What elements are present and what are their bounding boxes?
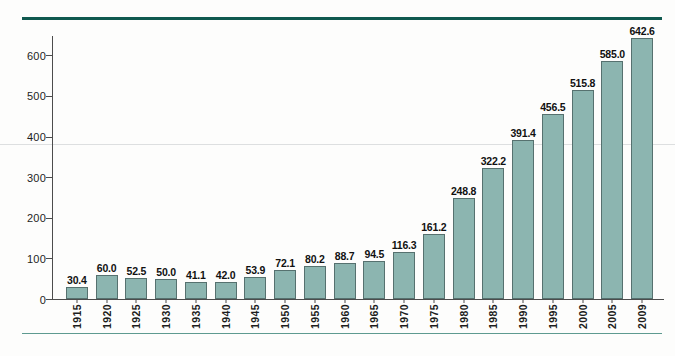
x-axis-tick-mark: [255, 299, 256, 303]
x-axis-tick-label: 2000: [577, 304, 589, 329]
x-axis-tick-label: 1995: [547, 304, 559, 329]
x-axis-tick-mark: [374, 299, 375, 303]
x-axis-tick-mark: [106, 299, 107, 303]
x-axis-tick-label: 1925: [130, 304, 142, 329]
bar-column: 322.2: [479, 36, 509, 299]
x-axis-label-column: 2000: [568, 304, 598, 348]
bar-value-label: 642.6: [629, 25, 654, 37]
x-axis-tick-label: 1950: [279, 304, 291, 329]
y-axis-tick-mark: [46, 96, 52, 97]
x-axis-label-column: 1965: [360, 304, 390, 348]
x-axis-label-column: 1925: [122, 304, 152, 348]
bar[interactable]: 42.0: [215, 282, 237, 299]
x-axis-tick-mark: [344, 299, 345, 303]
bar-value-label: 248.8: [451, 185, 476, 197]
y-axis-tick-label: 300: [27, 172, 46, 184]
x-axis-tick-mark: [404, 299, 405, 303]
bar[interactable]: 52.5: [125, 278, 147, 299]
x-axis-tick-label: 1935: [190, 304, 202, 329]
x-axis-tick-mark: [166, 299, 167, 303]
bar[interactable]: 41.1: [185, 282, 207, 299]
bar-column: 161.2: [419, 36, 449, 299]
y-axis-tick-label: 200: [27, 212, 46, 224]
x-axis-tick-mark: [612, 299, 613, 303]
bar-column: 52.5: [122, 36, 152, 299]
x-axis-label-column: 1975: [419, 304, 449, 348]
bar[interactable]: 161.2: [423, 234, 445, 299]
x-axis-line: [52, 299, 664, 300]
y-axis-tick-label: 600: [27, 50, 46, 62]
bar-value-label: 41.1: [186, 269, 206, 281]
x-axis-tick-label: 1920: [101, 304, 113, 329]
bar-column: 72.1: [270, 36, 300, 299]
bar-value-label: 585.0: [600, 48, 625, 60]
x-axis-label-column: 1960: [330, 304, 360, 348]
bar[interactable]: 80.2: [304, 266, 326, 299]
x-axis-tick-mark: [582, 299, 583, 303]
bar-value-label: 456.5: [540, 101, 565, 113]
bar-column: 41.1: [181, 36, 211, 299]
y-axis-tick-mark: [46, 177, 52, 178]
bar[interactable]: 50.0: [155, 279, 177, 299]
x-axis-label-column: 1995: [538, 304, 568, 348]
bar-column: 88.7: [330, 36, 360, 299]
y-axis-tick-label: 0: [40, 294, 46, 306]
x-axis-label-column: 1935: [181, 304, 211, 348]
x-axis-label-column: 1990: [508, 304, 538, 348]
bar-value-label: 94.5: [365, 248, 385, 260]
bar[interactable]: 88.7: [334, 263, 356, 299]
y-axis-tick-mark: [46, 55, 52, 56]
x-axis-tick-label: 2005: [606, 304, 618, 329]
bar-value-label: 30.4: [67, 274, 87, 286]
x-axis-tick-label: 1970: [398, 304, 410, 329]
bar-value-label: 60.0: [97, 262, 117, 274]
bar[interactable]: 72.1: [274, 270, 296, 299]
x-axis-labels: 1915192019251930193519401945195019551960…: [53, 304, 664, 348]
bar[interactable]: 642.6: [631, 38, 653, 299]
x-axis-label-column: 1945: [241, 304, 271, 348]
x-axis-tick-mark: [76, 299, 77, 303]
bar-column: 30.4: [62, 36, 92, 299]
x-axis-label-column: 1915: [62, 304, 92, 348]
x-axis-label-column: 1920: [92, 304, 122, 348]
x-axis-tick-label: 1985: [487, 304, 499, 329]
bar-value-label: 88.7: [335, 250, 355, 262]
x-axis-tick-label: 1930: [160, 304, 172, 329]
bar-column: 248.8: [449, 36, 479, 299]
x-axis-tick-mark: [493, 299, 494, 303]
bar-column: 80.2: [300, 36, 330, 299]
bar-column: 42.0: [211, 36, 241, 299]
bar-value-label: 161.2: [421, 221, 446, 233]
plot-area: 0100200300400500600 30.460.052.550.041.1…: [52, 36, 664, 300]
x-axis-tick-label: 1940: [220, 304, 232, 329]
x-axis-tick-mark: [523, 299, 524, 303]
bar[interactable]: 456.5: [542, 114, 564, 299]
bar-chart-figure: 0100200300400500600 30.460.052.550.041.1…: [0, 0, 675, 356]
bar-value-label: 53.9: [246, 264, 266, 276]
bar[interactable]: 116.3: [393, 252, 415, 299]
bar-column: 60.0: [92, 36, 122, 299]
bar[interactable]: 94.5: [363, 261, 385, 299]
bar[interactable]: 30.4: [66, 287, 88, 299]
bar-column: 642.6: [627, 36, 657, 299]
bar[interactable]: 322.2: [482, 168, 504, 299]
bar-value-label: 50.0: [156, 266, 176, 278]
x-axis-label-column: 1930: [151, 304, 181, 348]
bar[interactable]: 248.8: [453, 198, 475, 299]
x-axis-tick-label: 1965: [368, 304, 380, 329]
bar-value-label: 72.1: [275, 257, 295, 269]
bar[interactable]: 53.9: [244, 277, 266, 299]
bar[interactable]: 585.0: [601, 61, 623, 299]
bar-column: 116.3: [389, 36, 419, 299]
x-axis-label-column: 1970: [389, 304, 419, 348]
bar-column: 391.4: [508, 36, 538, 299]
bar[interactable]: 60.0: [96, 275, 118, 299]
y-axis-tick-mark: [46, 137, 52, 138]
y-axis-tick-mark: [46, 218, 52, 219]
x-axis-tick-mark: [225, 299, 226, 303]
bar[interactable]: 515.8: [572, 90, 594, 299]
bar[interactable]: 391.4: [512, 140, 534, 299]
x-axis-label-column: 2005: [598, 304, 628, 348]
top-rule-decoration: [22, 17, 662, 20]
x-axis-tick-mark: [552, 299, 553, 303]
